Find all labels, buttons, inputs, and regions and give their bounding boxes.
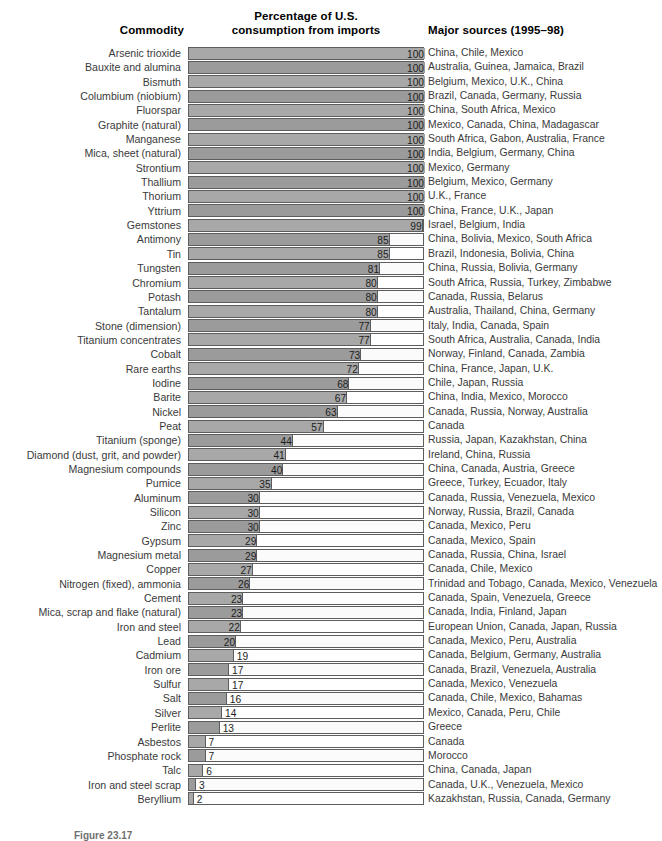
chart-row: Phosphate rock7Morocco bbox=[0, 749, 662, 763]
bar-value-label: 27 bbox=[189, 564, 255, 577]
bar bbox=[189, 750, 206, 761]
bar-value-label: 29 bbox=[189, 550, 259, 563]
bar-track: 100 bbox=[188, 104, 424, 117]
major-sources-text: Norway, Finland, Canada, Zambia bbox=[428, 347, 585, 361]
major-sources-text: Russia, Japan, Kazakhstan, China bbox=[428, 433, 587, 447]
major-sources-text: Canada, Mexico, Venezuela bbox=[428, 677, 557, 691]
commodity-label: Iron and steel scrap bbox=[0, 778, 181, 792]
bar-value-label: 6 bbox=[203, 765, 428, 778]
major-sources-text: Israel, Belgium, India bbox=[428, 218, 525, 232]
commodity-label: Mica, scrap and flake (natural) bbox=[0, 605, 181, 619]
chart-row: Bismuth100Belgium, Mexico, U.K., China bbox=[0, 75, 662, 89]
chart-row: Pumice35Greece, Turkey, Ecuador, Italy bbox=[0, 476, 662, 490]
bar-value-label: 68 bbox=[189, 378, 351, 391]
bar-value-label: 100 bbox=[189, 177, 427, 190]
bar-track: 29 bbox=[188, 534, 424, 547]
bar-value-label: 41 bbox=[189, 449, 288, 462]
chart-row: Silver14Mexico, Canada, Peru, Chile bbox=[0, 706, 662, 720]
bar-track: 57 bbox=[188, 420, 424, 433]
chart-row: Lead20Canada, Mexico, Peru, Australia bbox=[0, 634, 662, 648]
bar-track: 100 bbox=[188, 118, 424, 131]
chart-row: Talc6China, Canada, Japan bbox=[0, 763, 662, 777]
commodity-label: Potash bbox=[0, 290, 181, 304]
major-sources-text: Canada, Spain, Venezuela, Greece bbox=[428, 591, 591, 605]
bar-track: 67 bbox=[188, 391, 424, 404]
bar-track: 13 bbox=[188, 721, 424, 734]
commodity-label: Copper bbox=[0, 562, 181, 576]
chart-row: Nitrogen (fixed), ammonia26Trinidad and … bbox=[0, 577, 662, 591]
bar-value-label: 80 bbox=[189, 291, 380, 304]
major-sources-text: Mexico, Germany bbox=[428, 161, 509, 175]
major-sources-text: India, Belgium, Germany, China bbox=[428, 146, 575, 160]
chart-row: Perlite13Greece bbox=[0, 720, 662, 734]
bar bbox=[189, 707, 222, 718]
chart-row: Diamond (dust, grit, and powder)41Irelan… bbox=[0, 448, 662, 462]
commodity-label: Talc bbox=[0, 763, 181, 777]
major-sources-text: South Africa, Russia, Turkey, Zimbabwe bbox=[428, 276, 611, 290]
header-commodity: Commodity bbox=[0, 24, 184, 36]
bar-track: 20 bbox=[188, 635, 424, 648]
commodity-label: Cobalt bbox=[0, 347, 181, 361]
commodity-label: Titanium (sponge) bbox=[0, 433, 181, 447]
major-sources-text: Canada, Brazil, Venezuela, Australia bbox=[428, 663, 596, 677]
chart-row: Mica, sheet (natural)100India, Belgium, … bbox=[0, 146, 662, 160]
bar-value-label: 77 bbox=[189, 320, 373, 333]
bar-value-label: 2 bbox=[194, 793, 428, 806]
bar-value-label: 77 bbox=[189, 334, 373, 347]
commodity-label: Thallium bbox=[0, 175, 181, 189]
bar-track: 99 bbox=[188, 219, 424, 232]
major-sources-text: China, Chile, Mexico bbox=[428, 46, 523, 60]
bar-value-label: 30 bbox=[189, 521, 262, 534]
bar-value-label: 7 bbox=[206, 750, 428, 763]
header-percentage-line1: Percentage of U.S. bbox=[190, 9, 422, 23]
bar-track: 17 bbox=[188, 663, 424, 676]
bar-value-label: 100 bbox=[189, 62, 427, 75]
commodity-label: Phosphate rock bbox=[0, 749, 181, 763]
major-sources-text: Australia, Guinea, Jamaica, Brazil bbox=[428, 60, 584, 74]
chart-row: Strontium100Mexico, Germany bbox=[0, 161, 662, 175]
bar-value-label: 100 bbox=[189, 148, 427, 161]
commodity-label: Zinc bbox=[0, 519, 181, 533]
major-sources-text: China, Canada, Japan bbox=[428, 763, 531, 777]
chart-row: Potash80Canada, Russia, Belarus bbox=[0, 290, 662, 304]
chart-row: Gemstones99Israel, Belgium, India bbox=[0, 218, 662, 232]
major-sources-text: Chile, Japan, Russia bbox=[428, 376, 523, 390]
major-sources-text: Ireland, China, Russia bbox=[428, 448, 530, 462]
bar-track: 72 bbox=[188, 362, 424, 375]
commodity-label: Beryllium bbox=[0, 792, 181, 806]
bar-value-label: 23 bbox=[189, 593, 245, 606]
bar-value-label: 100 bbox=[189, 91, 427, 104]
commodity-label: Iron and steel bbox=[0, 620, 181, 634]
bar-track: 85 bbox=[188, 247, 424, 260]
major-sources-text: Canada, Russia, Norway, Australia bbox=[428, 405, 588, 419]
bar bbox=[189, 650, 234, 661]
major-sources-text: Canada, India, Finland, Japan bbox=[428, 605, 567, 619]
bar-track: 7 bbox=[188, 749, 424, 762]
bar-track: 23 bbox=[188, 606, 424, 619]
chart-rows: Arsenic trioxide100China, Chile, MexicoB… bbox=[0, 46, 662, 806]
commodity-label: Gypsum bbox=[0, 534, 181, 548]
bar-value-label: 19 bbox=[234, 650, 428, 663]
chart-row: Mica, scrap and flake (natural)23Canada,… bbox=[0, 605, 662, 619]
bar-track: 41 bbox=[188, 448, 424, 461]
chart-row: Magnesium metal29Canada, Russia, China, … bbox=[0, 548, 662, 562]
bar-track: 100 bbox=[188, 61, 424, 74]
bar-value-label: 100 bbox=[189, 191, 427, 204]
commodity-label: Fluorspar bbox=[0, 103, 181, 117]
bar bbox=[189, 779, 196, 790]
bar-track: 19 bbox=[188, 649, 424, 662]
bar-track: 100 bbox=[188, 190, 424, 203]
chart-row: Columbium (niobium)100Brazil, Canada, Ge… bbox=[0, 89, 662, 103]
bar-value-label: 20 bbox=[189, 636, 238, 649]
chart-row: Manganese100South Africa, Gabon, Austral… bbox=[0, 132, 662, 146]
major-sources-text: China, Russia, Bolivia, Germany bbox=[428, 261, 578, 275]
bar-track: 16 bbox=[188, 692, 424, 705]
bar-track: 63 bbox=[188, 405, 424, 418]
bar-value-label: 16 bbox=[227, 693, 428, 706]
major-sources-text: Trinidad and Tobago, Canada, Mexico, Ven… bbox=[428, 577, 657, 591]
chart-row: Thallium100Belgium, Mexico, Germany bbox=[0, 175, 662, 189]
bar-track: 80 bbox=[188, 290, 424, 303]
bar-track: 22 bbox=[188, 620, 424, 633]
bar-track: 68 bbox=[188, 377, 424, 390]
bar-value-label: 100 bbox=[189, 48, 427, 61]
